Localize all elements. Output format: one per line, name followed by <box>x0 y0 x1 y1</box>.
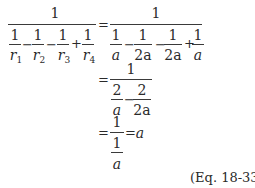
row2-term1-bar <box>111 99 123 100</box>
row1-lhs-term3-bar <box>57 44 69 45</box>
row1-lhs-term2-den: r2 <box>32 48 46 64</box>
row1-rhs-main-bar <box>110 24 202 25</box>
row1-lhs-term1-den: r1 <box>9 48 23 64</box>
row1-rhs-numerator: 1 <box>146 6 166 20</box>
row1-lhs-term1-num: 1 <box>9 28 21 42</box>
row1-rhs-term2-num: 1 <box>134 28 152 42</box>
equation-label: (Eq. 18-33) <box>190 170 255 185</box>
row1-rhs-term2-den: 2a <box>133 48 153 62</box>
row1-rhs-term3-bar <box>164 44 182 45</box>
row2-equals: = <box>98 73 109 86</box>
row1-rhs-term4-bar <box>192 44 204 45</box>
row1-rhs-term3-num: 1 <box>164 28 182 42</box>
row1-rhs-term4-num: 1 <box>192 28 204 42</box>
row2-term2-bar <box>133 99 151 100</box>
row1-lhs-op2: − <box>46 38 57 51</box>
row1-rhs-term2-bar <box>134 44 152 45</box>
row2-numerator: 1 <box>121 62 141 76</box>
row1-lhs-term4-den: r4 <box>82 48 96 64</box>
row1-rhs-term4-den: a <box>192 48 204 62</box>
row3-equals: = <box>98 126 109 139</box>
row1-lhs-op3: + <box>71 37 82 50</box>
row1-rhs-term1-num: 1 <box>110 28 122 42</box>
row2-term2-num: 2 <box>133 83 151 97</box>
row3-result: a <box>135 126 145 140</box>
row2-main-bar <box>110 79 152 80</box>
row3-numerator: 1 <box>110 115 124 129</box>
row1-lhs-term3-num: 1 <box>57 28 69 42</box>
row1-lhs-main-bar <box>8 24 96 25</box>
row1-lhs-term2-bar <box>32 44 44 45</box>
row3-inner-den: a <box>110 157 124 171</box>
row1-lhs-numerator: 1 <box>45 6 65 20</box>
row1-lhs-term3-den: r3 <box>57 48 71 64</box>
row1-lhs-term4-num: 1 <box>82 28 94 42</box>
row1-rhs-term1-bar <box>110 44 122 45</box>
row1-equals: = <box>98 18 109 31</box>
row3-inner-num: 1 <box>110 136 124 150</box>
row1-rhs-term1-den: a <box>110 48 122 62</box>
row3-inner-bar <box>111 152 123 153</box>
row1-lhs-term2-num: 1 <box>32 28 44 42</box>
row2-term1-num: 2 <box>111 83 123 97</box>
row1-rhs-term3-den: 2a <box>163 48 183 62</box>
row2-term2-den: 2a <box>132 103 152 117</box>
row3-main-bar <box>110 132 124 133</box>
row1-lhs-term1-bar <box>9 44 21 45</box>
row1-lhs-term4-bar <box>82 44 94 45</box>
